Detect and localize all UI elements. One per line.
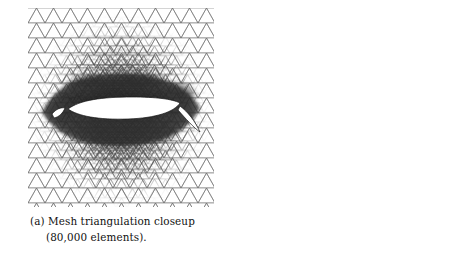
mesh-triangulation-plot bbox=[28, 8, 214, 207]
panel-a-caption-line2: (80,000 elements). bbox=[30, 230, 220, 246]
figure-panel-b: (b) Mach number solution contours and pa… bbox=[235, 0, 470, 253]
figure-row: (a) Mesh triangulation closeup (80,000 e… bbox=[0, 0, 470, 253]
figure-panel-a: (a) Mesh triangulation closeup (80,000 e… bbox=[0, 0, 235, 253]
panel-a-caption-line1: (a) Mesh triangulation closeup bbox=[30, 214, 220, 230]
mesh-svg bbox=[28, 8, 214, 207]
panel-a-caption: (a) Mesh triangulation closeup (80,000 e… bbox=[30, 214, 220, 245]
